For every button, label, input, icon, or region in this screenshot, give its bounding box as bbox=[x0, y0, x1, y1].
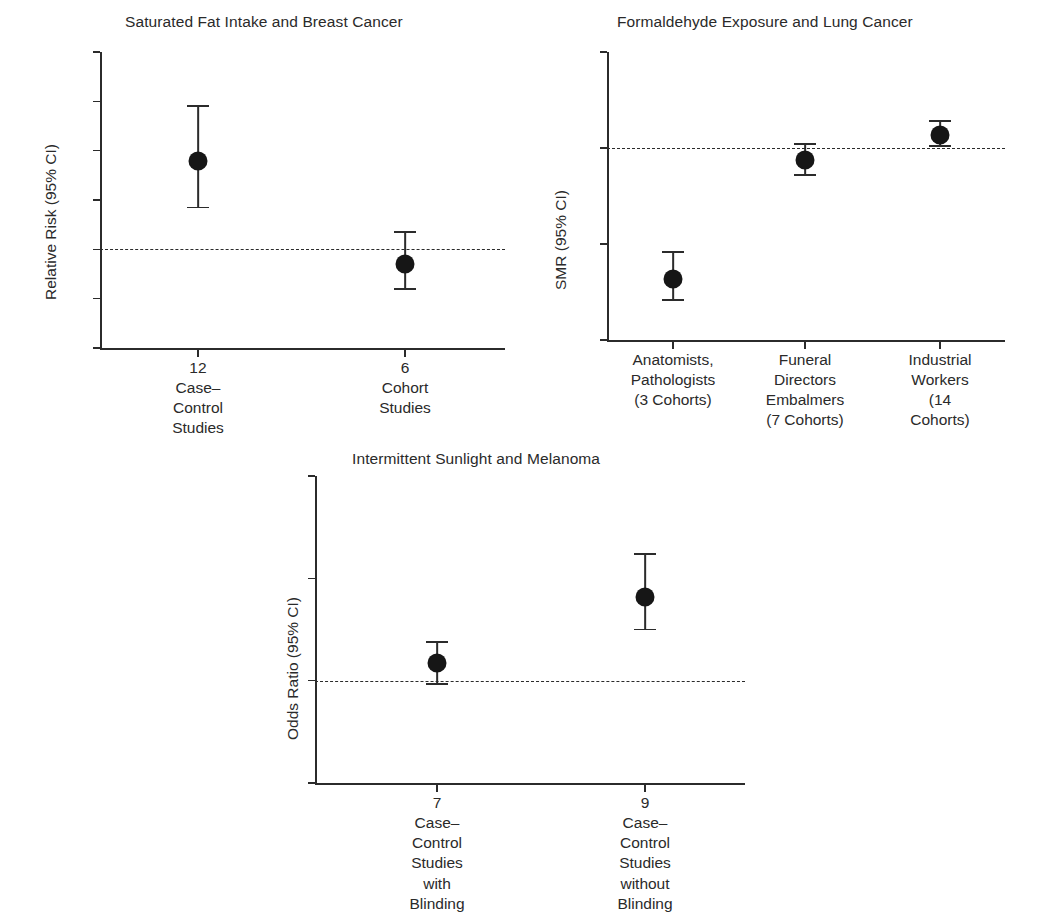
y-tick bbox=[600, 339, 607, 341]
y-axis-line bbox=[607, 52, 609, 340]
x-axis-line bbox=[100, 348, 505, 350]
y-tick bbox=[308, 782, 315, 784]
error-bar-cap-lower bbox=[187, 207, 209, 209]
x-category-label: Funeral Directors Embalmers (7 Cohorts) bbox=[766, 350, 844, 431]
y-tick bbox=[308, 475, 315, 477]
y-tick bbox=[600, 147, 607, 149]
panel-title: Formaldehyde Exposure and Lung Cancer bbox=[617, 13, 913, 31]
x-tick bbox=[197, 349, 199, 357]
y-tick bbox=[93, 298, 100, 300]
data-point-marker bbox=[189, 151, 208, 170]
panel-title: Saturated Fat Intake and Breast Cancer bbox=[125, 13, 403, 31]
x-category-label: 6 Cohort Studies bbox=[379, 358, 431, 418]
y-tick bbox=[600, 243, 607, 245]
data-point-marker bbox=[636, 587, 655, 606]
x-category-label: Anatomists, Pathologists (3 Cohorts) bbox=[631, 350, 715, 410]
error-bar-cap-upper bbox=[662, 251, 684, 253]
y-tick bbox=[308, 680, 315, 682]
y-tick bbox=[308, 578, 315, 580]
x-axis-line bbox=[607, 340, 1005, 342]
error-bar-cap-upper bbox=[394, 231, 416, 233]
x-tick bbox=[672, 341, 674, 349]
error-bar-cap-lower bbox=[426, 683, 448, 685]
x-category-label: 7 Case–Control Studies with Blinding bbox=[409, 793, 464, 914]
reference-line bbox=[100, 249, 505, 250]
x-tick bbox=[939, 341, 941, 349]
y-tick bbox=[93, 101, 100, 103]
error-bar-cap-upper bbox=[426, 641, 448, 643]
error-bar-cap-upper bbox=[187, 105, 209, 107]
error-bar-cap-lower bbox=[662, 299, 684, 301]
y-tick bbox=[93, 150, 100, 152]
y-tick bbox=[93, 199, 100, 201]
data-point-marker bbox=[796, 150, 815, 169]
panel-title: Intermittent Sunlight and Melanoma bbox=[352, 450, 600, 468]
error-bar-cap-upper bbox=[929, 120, 951, 122]
x-axis-line bbox=[315, 783, 745, 785]
error-bar-cap-lower bbox=[929, 145, 951, 147]
reference-line bbox=[315, 681, 745, 682]
error-bar-cap-lower bbox=[394, 288, 416, 290]
reference-line bbox=[607, 148, 1005, 149]
y-tick bbox=[93, 347, 100, 349]
x-tick bbox=[804, 341, 806, 349]
error-bar-cap-upper bbox=[634, 553, 656, 555]
data-point-marker bbox=[664, 269, 683, 288]
error-bar-cap-upper bbox=[794, 143, 816, 145]
x-category-label: Industrial Workers (14 Cohorts) bbox=[909, 350, 972, 431]
y-axis-line bbox=[315, 476, 317, 783]
y-tick bbox=[93, 249, 100, 251]
y-axis-title: Relative Risk (95% CI) bbox=[42, 144, 60, 300]
y-axis-title: Odds Ratio (95% CI) bbox=[284, 597, 302, 740]
error-bar-cap-lower bbox=[634, 629, 656, 631]
data-point-marker bbox=[931, 125, 950, 144]
y-axis-title: SMR (95% CI) bbox=[552, 190, 570, 290]
x-tick bbox=[404, 349, 406, 357]
y-tick bbox=[600, 51, 607, 53]
data-point-marker bbox=[428, 654, 447, 673]
x-category-label: 12 Case–Control Studies bbox=[172, 358, 224, 439]
x-category-label: 9 Case–Control Studies without Blinding bbox=[617, 793, 672, 914]
error-bar-cap-lower bbox=[794, 174, 816, 176]
x-tick bbox=[436, 784, 438, 792]
y-axis-line bbox=[100, 52, 102, 348]
x-tick bbox=[644, 784, 646, 792]
data-point-marker bbox=[396, 255, 415, 274]
y-tick bbox=[93, 51, 100, 53]
